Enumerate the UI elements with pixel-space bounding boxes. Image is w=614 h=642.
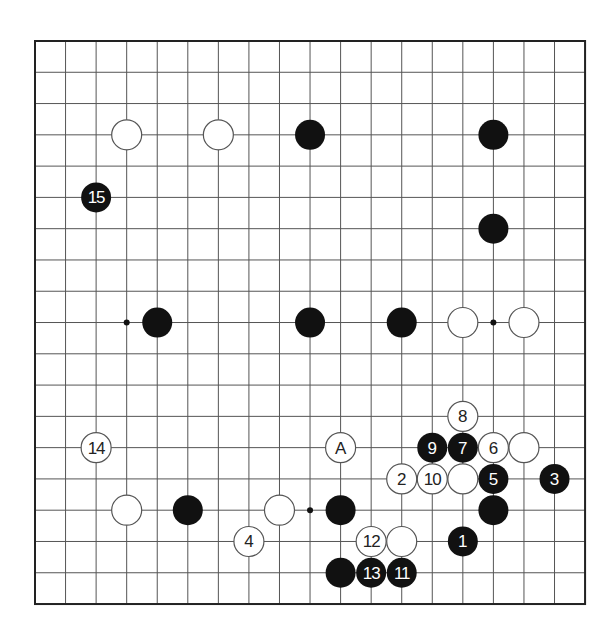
white-stone-14: 14 bbox=[81, 433, 111, 463]
white-stone bbox=[387, 526, 417, 556]
white-stone-circle bbox=[448, 308, 478, 338]
white-stone-8: 8 bbox=[448, 401, 478, 431]
black-stone-11: 11 bbox=[387, 558, 417, 588]
white-stone-circle bbox=[203, 120, 233, 150]
white-stone-circle bbox=[264, 495, 294, 525]
stone-label: 4 bbox=[244, 532, 253, 551]
white-stone bbox=[509, 433, 539, 463]
black-stone bbox=[478, 495, 508, 525]
white-stone bbox=[509, 308, 539, 338]
black-stone-circle bbox=[326, 495, 356, 525]
black-stone bbox=[295, 308, 325, 338]
white-stone-circle bbox=[112, 495, 142, 525]
go-board: 15814A9762105341211311 bbox=[0, 0, 614, 642]
star-point bbox=[490, 320, 496, 326]
white-stone-circle bbox=[509, 308, 539, 338]
stone-label: 2 bbox=[397, 470, 406, 489]
white-stone bbox=[448, 308, 478, 338]
go-board-diagram: 15814A9762105341211311 bbox=[0, 0, 614, 642]
black-stone-7: 7 bbox=[448, 433, 478, 463]
black-stone-5: 5 bbox=[478, 464, 508, 494]
white-stone bbox=[112, 120, 142, 150]
black-stone-13: 13 bbox=[356, 558, 386, 588]
white-stone bbox=[264, 495, 294, 525]
stone-label: 6 bbox=[489, 439, 498, 458]
white-stone-10: 10 bbox=[417, 464, 447, 494]
white-stone bbox=[203, 120, 233, 150]
stone-label: 14 bbox=[88, 439, 105, 458]
black-stone-circle bbox=[478, 120, 508, 150]
star-point bbox=[124, 320, 130, 326]
black-stone bbox=[173, 495, 203, 525]
white-stone-2: 2 bbox=[387, 464, 417, 494]
white-stone bbox=[448, 464, 478, 494]
stone-label: 9 bbox=[428, 439, 437, 458]
black-stone-1: 1 bbox=[448, 526, 478, 556]
black-stone-circle bbox=[387, 308, 417, 338]
black-stone bbox=[295, 120, 325, 150]
white-stone-circle bbox=[448, 464, 478, 494]
black-stone bbox=[142, 308, 172, 338]
black-stone-circle bbox=[326, 558, 356, 588]
black-stone bbox=[478, 120, 508, 150]
white-stone bbox=[112, 495, 142, 525]
stone-label: A bbox=[335, 439, 347, 458]
white-stone-A: A bbox=[326, 433, 356, 463]
white-stone-4: 4 bbox=[234, 526, 264, 556]
star-point bbox=[307, 507, 313, 513]
white-stone-circle bbox=[509, 433, 539, 463]
stone-label: 10 bbox=[424, 470, 441, 489]
stone-label: 12 bbox=[363, 532, 380, 551]
black-stone bbox=[326, 558, 356, 588]
stone-label: 8 bbox=[458, 407, 467, 426]
black-stone bbox=[478, 214, 508, 244]
white-stone-circle bbox=[387, 526, 417, 556]
black-stone-circle bbox=[478, 214, 508, 244]
black-stone-circle bbox=[478, 495, 508, 525]
stone-label: 7 bbox=[458, 439, 467, 458]
black-stone-3: 3 bbox=[540, 464, 570, 494]
stone-label: 5 bbox=[489, 470, 498, 489]
black-stone bbox=[387, 308, 417, 338]
stone-label: 15 bbox=[88, 188, 105, 207]
stone-label: 11 bbox=[394, 564, 410, 583]
black-stone-9: 9 bbox=[417, 433, 447, 463]
stone-label: 3 bbox=[550, 470, 559, 489]
black-stone-circle bbox=[173, 495, 203, 525]
black-stone bbox=[326, 495, 356, 525]
black-stone-circle bbox=[142, 308, 172, 338]
white-stone-6: 6 bbox=[478, 433, 508, 463]
white-stone-circle bbox=[112, 120, 142, 150]
black-stone-circle bbox=[295, 120, 325, 150]
black-stone-circle bbox=[295, 308, 325, 338]
white-stone-12: 12 bbox=[356, 526, 386, 556]
black-stone-15: 15 bbox=[81, 182, 111, 212]
stone-label: 1 bbox=[458, 532, 467, 551]
stone-label: 13 bbox=[363, 564, 380, 583]
